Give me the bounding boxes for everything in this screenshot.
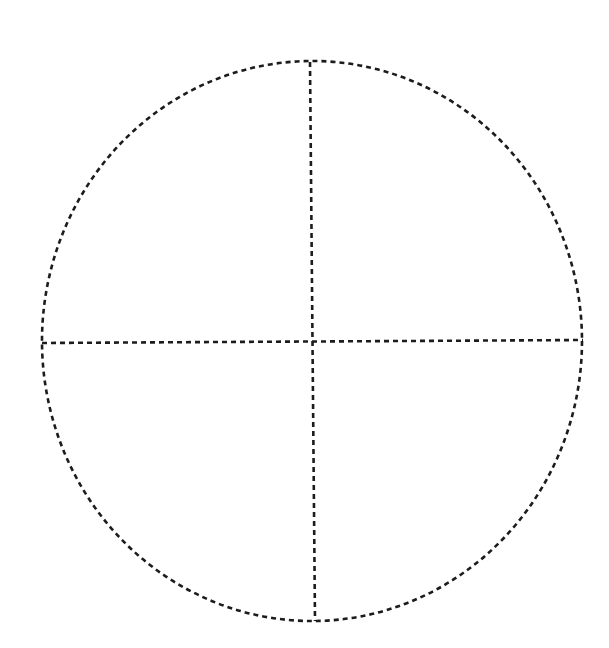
quadrant-circle-diagram — [0, 0, 609, 648]
horizontal-divider — [42, 340, 583, 343]
